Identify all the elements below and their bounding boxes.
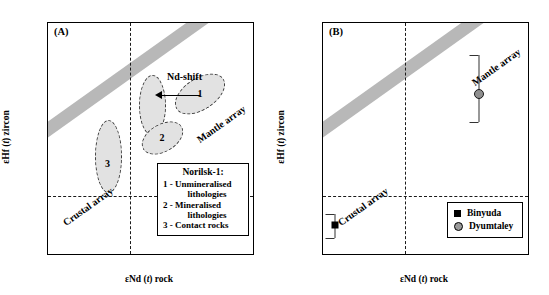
legend-entry-1-cont: lithologies: [163, 189, 243, 199]
legend-row-binyuda: Binyuda: [454, 207, 516, 220]
x-tick--5-b: [323, 254, 324, 255]
legend-entry-3: 3 - Contact rocks: [163, 220, 243, 230]
y-tick-15: [47, 23, 48, 24]
y-tick--5-b: [322, 254, 323, 255]
x-tick-5: [212, 254, 213, 255]
x-tick--5: [48, 254, 49, 255]
error-cap-bottom-binyuda: [326, 238, 335, 239]
legend-entry-1-lead: 1 - Unmineralised: [163, 179, 232, 189]
circle-marker-icon: [454, 222, 463, 231]
y-tick-minor-7.5: [47, 110, 48, 111]
figure-epsilon-hf-vs-epsilon-nd: εHf (t) zircon εNd (t) rock 15 10 5 0 -5…: [0, 0, 549, 295]
y-tick-minor-7.5-b: [322, 110, 323, 111]
legend-label-binyuda: Binyuda: [467, 207, 501, 220]
legend-entry-2-cont: lithologies: [163, 210, 243, 220]
y-axis-title-b: εHf (t) zircon: [276, 110, 286, 164]
y-tick-minor-2.5: [47, 167, 48, 168]
legend-entry-3-lead: 3 - Contact rocks: [163, 220, 229, 230]
field-ellipse-label-2: 2: [160, 132, 165, 143]
x-tick-minor-2.5-b: [446, 254, 447, 255]
x-tick-minor-7.5: [253, 254, 254, 255]
x-tick-5-b: [487, 254, 488, 255]
y-tick-5: [47, 139, 48, 140]
x-tick-minor--2.5-b: [364, 254, 365, 255]
x-tick-minor-2.5: [171, 254, 172, 255]
nd-shift-arrow-head-icon: [155, 91, 162, 99]
error-cap-top-binyuda: [326, 214, 335, 215]
y-tick-minor--2.5-b: [322, 225, 323, 226]
panel-a: εHf (t) zircon εNd (t) rock 15 10 5 0 -5…: [0, 0, 274, 295]
crustal-array-label-b: Crustal array: [336, 185, 390, 228]
crustal-array-label-a: Crustal array: [61, 185, 115, 228]
nd-shift-arrow-line: [162, 95, 200, 96]
x-tick-minor--2.5: [89, 254, 90, 255]
square-marker-icon: [454, 210, 461, 217]
y-tick-minor-2.5-b: [322, 167, 323, 168]
y-tick-minor--2.5: [47, 225, 48, 226]
panel-tag-a: (A): [54, 26, 69, 37]
field-ellipse-label-1: 1: [198, 88, 203, 99]
legend-title-a: Norilsk-1:: [163, 167, 243, 178]
x-tick-0-b: [405, 254, 406, 255]
zero-line-vertical-b: [405, 23, 406, 254]
legend-panel-a: Norilsk-1: 1 - Unmineralised lithologies…: [157, 163, 249, 236]
data-point-dyumtaley: [474, 89, 484, 99]
zero-line-horizontal-b: [323, 196, 528, 197]
terrestrial-array-band-b: [322, 22, 529, 155]
field-ellipse-label-3: 3: [105, 158, 110, 169]
panel-b: εHf (t) zircon εNd (t) rock 15 10 5 0 -5…: [275, 0, 549, 295]
plot-area-b: 15 10 5 0 -5 -5 0 5: [322, 22, 529, 255]
y-tick-10-b: [322, 81, 323, 82]
x-axis-title-a: εNd (t) rock: [125, 274, 173, 284]
data-point-binyuda: [331, 222, 338, 229]
x-tick-0: [130, 254, 131, 255]
y-tick-5-b: [322, 139, 323, 140]
x-tick-minor-7.5-b: [528, 254, 529, 255]
plot-area-a: 15 10 5 0 -5 -5 0 5: [47, 22, 254, 255]
y-tick--5: [47, 254, 48, 255]
error-cap-bottom-dyumtaley: [470, 122, 479, 123]
y-axis-title-a: εHf (t) zircon: [1, 110, 11, 164]
legend-entry-1: 1 - Unmineralised lithologies: [163, 179, 243, 200]
zero-line-vertical-a: [130, 23, 131, 254]
y-tick-15-b: [322, 23, 323, 24]
legend-entry-2-lead: 2 - Mineralised: [163, 200, 221, 210]
y-tick-10: [47, 81, 48, 82]
y-tick-minor-12.5: [47, 52, 48, 53]
error-cap-top-dyumtaley: [470, 55, 479, 56]
legend-row-dyumtaley: Dyumtaley: [454, 220, 516, 233]
panel-tag-b: (B): [329, 26, 343, 37]
legend-panel-b: Binyuda Dyumtaley: [447, 202, 523, 238]
nd-shift-label: Nd-shift: [167, 71, 202, 82]
legend-entry-2: 2 - Mineralised lithologies: [163, 200, 243, 221]
field-ellipse-3: [95, 120, 122, 193]
y-tick-minor-12.5-b: [322, 52, 323, 53]
legend-label-dyumtaley: Dyumtaley: [469, 220, 513, 233]
x-axis-title-b: εNd (t) rock: [400, 274, 448, 284]
